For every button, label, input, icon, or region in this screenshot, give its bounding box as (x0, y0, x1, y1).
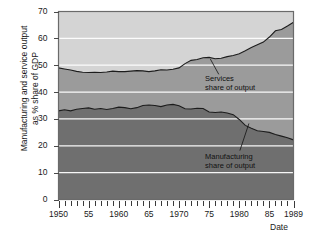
x-tick-label: 1960 (106, 209, 132, 219)
y-tick-mark (54, 92, 59, 93)
x-tick-label: 65 (136, 209, 162, 219)
y-tick-label: 30 (28, 113, 48, 123)
y-tick-label: 10 (28, 167, 48, 177)
manufacturing-annotation: Manufacturing share of output (205, 152, 255, 170)
x-tick-label: 55 (76, 209, 102, 219)
y-tick-label: 60 (28, 33, 48, 43)
x-tick-mark-minor (65, 201, 66, 206)
x-tick-mark-minor (83, 201, 84, 206)
x-tick-mark-minor (71, 201, 72, 206)
x-tick-mark-minor (95, 201, 96, 206)
y-tick-label: 20 (28, 140, 48, 150)
x-tick-label: 1970 (166, 209, 192, 219)
x-tick-mark-major (294, 201, 295, 208)
x-tick-mark-minor (263, 201, 264, 206)
x-tick-mark-minor (101, 201, 102, 206)
y-tick-mark (54, 173, 59, 174)
x-tick-mark-minor (191, 201, 192, 206)
x-tick-mark-major (149, 201, 150, 208)
x-tick-mark-minor (221, 201, 222, 206)
x-tick-mark-minor (77, 201, 78, 206)
x-tick-mark-minor (275, 201, 276, 206)
x-tick-label: 1980 (226, 209, 252, 219)
x-tick-mark-major (209, 201, 210, 208)
x-tick-mark-minor (143, 201, 144, 206)
y-tick-mark (54, 38, 59, 39)
x-tick-mark-minor (227, 201, 228, 206)
x-tick-mark-major (59, 201, 60, 208)
x-tick-mark-minor (233, 201, 234, 206)
x-tick-mark-minor (203, 201, 204, 206)
y-tick-mark (54, 65, 59, 66)
x-tick-mark-major (269, 201, 270, 208)
x-tick-mark-minor (257, 201, 258, 206)
x-tick-mark-minor (155, 201, 156, 206)
x-tick-mark-minor (173, 201, 174, 206)
x-tick-mark-minor (107, 201, 108, 206)
y-tick-label: 70 (28, 6, 48, 16)
y-tick-mark (54, 12, 59, 13)
x-tick-mark-minor (125, 201, 126, 206)
x-tick-mark-minor (185, 201, 186, 206)
x-tick-label: 75 (196, 209, 222, 219)
x-tick-mark-minor (167, 201, 168, 206)
x-tick-mark-minor (197, 201, 198, 206)
services-annotation: Services share of output (205, 74, 255, 92)
y-tick-mark (54, 119, 59, 120)
x-tick-mark-minor (245, 201, 246, 206)
x-tick-mark-minor (113, 201, 114, 206)
x-tick-mark-minor (161, 201, 162, 206)
x-tick-mark-major (119, 201, 120, 208)
x-tick-label: 1950 (46, 209, 72, 219)
x-tick-mark-major (179, 201, 180, 208)
y-tick-mark (54, 200, 59, 201)
x-tick-mark-minor (251, 201, 252, 206)
x-tick-mark-minor (215, 201, 216, 206)
chart-figure: Manufacturing and service output as % sh… (0, 0, 312, 236)
y-tick-label: 40 (28, 87, 48, 97)
x-tick-mark-minor (137, 201, 138, 206)
x-tick-mark-minor (287, 201, 288, 206)
x-tick-mark-major (239, 201, 240, 208)
x-tick-label: 1989 (281, 209, 307, 219)
x-tick-label: 85 (256, 209, 282, 219)
x-tick-mark-minor (131, 201, 132, 206)
y-tick-label: 50 (28, 60, 48, 70)
x-tick-mark-major (89, 201, 90, 208)
y-tick-mark (54, 146, 59, 147)
y-tick-label: 0 (28, 194, 48, 204)
x-tick-mark-minor (281, 201, 282, 206)
